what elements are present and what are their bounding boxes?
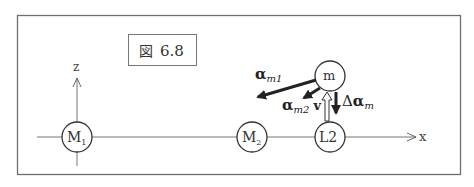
m2-subscript: 2	[256, 138, 261, 147]
figure-6-8-diagram: 図 6.8 z x M1 M2 L2 m αm1 αm2v	[0, 0, 474, 187]
x-axis: x	[37, 129, 427, 144]
alpha-m1-subscript: m1	[267, 73, 283, 84]
delta-alpha-subscript: m	[364, 100, 373, 111]
body-m: m	[315, 61, 345, 91]
delta-alpha-symbol: α	[353, 92, 365, 110]
l2-label: L2	[319, 129, 337, 145]
m-label: m	[323, 68, 335, 83]
z-axis-label: z	[73, 60, 79, 74]
svg-text:αm1: αm1	[255, 65, 282, 84]
svg-text:αm2v: αm2v	[282, 96, 321, 115]
alpha-m1-symbol: α	[255, 65, 267, 83]
x-axis-label: x	[419, 129, 427, 144]
alpha-m2-subscript: m2	[294, 104, 310, 115]
vector-hollow-up	[322, 92, 332, 121]
caption-number: 6.8	[160, 42, 184, 60]
m1-subscript: 1	[81, 138, 86, 147]
body-m2: M2	[237, 122, 267, 152]
m1-label: M	[67, 129, 81, 145]
delta-prefix: Δ	[342, 92, 353, 110]
figure-caption: 図 6.8	[129, 35, 197, 66]
vector-alpha-m2: αm2v	[282, 88, 321, 115]
body-m1: M1	[62, 122, 92, 152]
svg-text:Δαm: Δαm	[342, 92, 374, 111]
vector-delta-alpha-m: Δαm	[336, 92, 374, 113]
velocity-symbol: v	[312, 98, 321, 113]
caption-prefix: 図	[139, 43, 153, 59]
alpha-m2-symbol: α	[282, 96, 294, 114]
m2-label: M	[242, 129, 256, 145]
body-l2: L2	[315, 122, 345, 152]
vector-alpha-m1: αm1	[255, 65, 316, 97]
